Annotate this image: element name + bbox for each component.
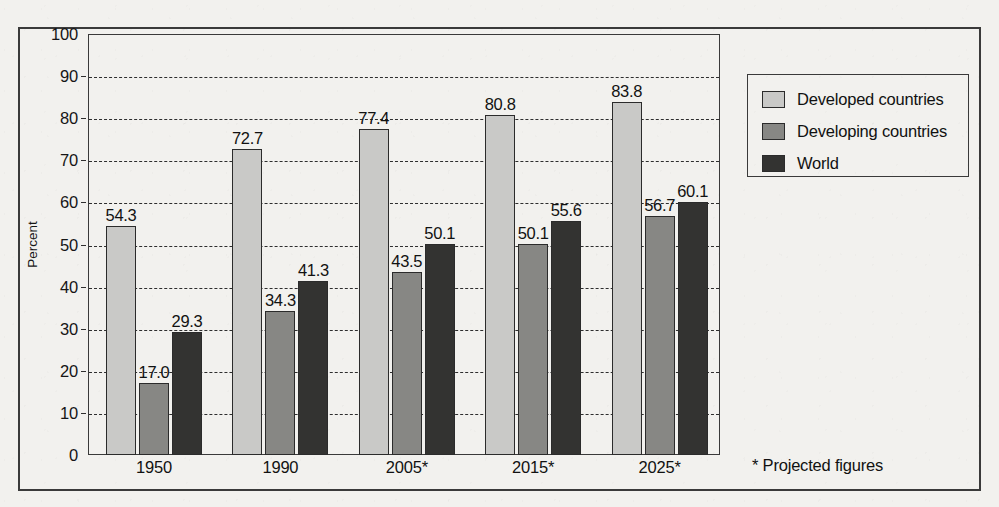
bar-value-label: 29.3 [172, 312, 203, 331]
bar-value-label: 56.7 [644, 196, 675, 215]
bar-value-label: 72.7 [232, 129, 263, 148]
y-axis-tick-label: 90 [60, 67, 78, 86]
x-axis-tick-label: 1990 [262, 458, 298, 477]
y-axis-tick-mark [81, 413, 86, 414]
bar-value-label: 54.3 [106, 206, 137, 225]
bar[interactable]: 55.6 [551, 221, 581, 455]
y-axis-tick-label: 80 [60, 109, 78, 128]
legend-label-developing: Developing countries [797, 122, 947, 141]
bar[interactable]: 41.3 [298, 281, 328, 455]
y-axis-tick-mark [81, 371, 86, 372]
bar[interactable]: 77.4 [359, 129, 389, 455]
y-axis-tick-mark [81, 329, 86, 330]
y-axis-tick-mark [81, 118, 86, 119]
chart-page: Percent 0102030405060708090100 54.317.02… [0, 0, 999, 507]
legend-item-developed[interactable]: Developed countries [762, 86, 968, 113]
y-axis-tick-label: 60 [60, 193, 78, 212]
y-axis-tick-label: 50 [60, 235, 78, 254]
bar-value-label: 50.1 [518, 224, 549, 243]
bar-value-label: 77.4 [358, 109, 389, 128]
bar[interactable]: 29.3 [172, 332, 202, 455]
bar-value-label: 83.8 [611, 82, 642, 101]
legend-label-developed: Developed countries [797, 90, 944, 109]
bar[interactable]: 60.1 [678, 202, 708, 455]
bar[interactable]: 83.8 [612, 102, 642, 455]
x-axis-tick-label: 2005* [386, 458, 428, 477]
y-axis-tick-label: 0 [69, 446, 78, 465]
footnote: * Projected figures [752, 456, 883, 475]
legend: Developed countries Developing countries… [747, 74, 969, 177]
y-axis-tick-mark [81, 160, 86, 161]
legend-swatch-developing-icon [762, 123, 785, 140]
y-axis-tick-mark [81, 287, 86, 288]
x-axis-tick-group: 195019902005*2015*2025* [88, 458, 720, 484]
bar[interactable]: 34.3 [265, 311, 295, 455]
bar-value-label: 80.8 [485, 95, 516, 114]
bar[interactable]: 56.7 [645, 216, 675, 455]
x-axis-tick-label: 1950 [136, 458, 172, 477]
legend-swatch-developed-icon [762, 91, 785, 108]
bars-layer: 54.317.029.372.734.341.377.443.550.180.8… [88, 34, 720, 455]
legend-label-world: World [797, 154, 839, 173]
bar[interactable]: 54.3 [106, 226, 136, 455]
bar-value-label: 43.5 [391, 252, 422, 271]
legend-swatch-world-icon [762, 155, 785, 172]
bar[interactable]: 43.5 [392, 272, 422, 455]
bar[interactable]: 50.1 [425, 244, 455, 455]
legend-item-world[interactable]: World [762, 150, 968, 177]
y-axis-tick-mark [81, 76, 86, 77]
y-axis-tick-mark [81, 202, 86, 203]
bar-value-label: 60.1 [677, 182, 708, 201]
legend-item-developing[interactable]: Developing countries [762, 118, 968, 145]
bar[interactable]: 17.0 [139, 383, 169, 455]
bar-value-label: 55.6 [551, 201, 582, 220]
y-axis-tick-label: 40 [60, 277, 78, 296]
y-axis-tick-label: 100 [51, 25, 78, 44]
y-axis-tick-label: 30 [60, 319, 78, 338]
y-axis-tick-label: 70 [60, 151, 78, 170]
bar-value-label: 50.1 [424, 224, 455, 243]
y-axis-tick-label: 20 [60, 361, 78, 380]
y-axis-tick-label: 10 [60, 403, 78, 422]
bar[interactable]: 50.1 [518, 244, 548, 455]
x-axis-tick-label: 2015* [512, 458, 554, 477]
y-axis-tick-mark [81, 245, 86, 246]
bar[interactable]: 72.7 [232, 149, 262, 455]
x-axis-tick-label: 2025* [639, 458, 681, 477]
bar-value-label: 41.3 [298, 261, 329, 280]
bar[interactable]: 80.8 [485, 115, 515, 455]
bar-value-label: 17.0 [139, 363, 170, 382]
bar-value-label: 34.3 [265, 291, 296, 310]
y-axis-tick-group: 0102030405060708090100 [18, 34, 86, 455]
